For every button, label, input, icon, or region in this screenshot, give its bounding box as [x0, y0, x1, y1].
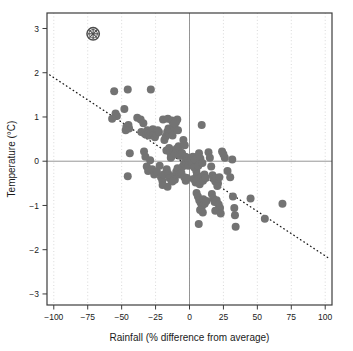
y-tick-label: −3: [29, 289, 39, 299]
data-point: [213, 182, 221, 190]
data-point: [278, 200, 286, 208]
x-tick-label: 25: [219, 312, 229, 322]
x-tick-label: 100: [318, 312, 332, 322]
data-point: [195, 220, 203, 228]
data-point: [215, 173, 223, 181]
data-point: [231, 211, 239, 219]
x-axis: −100−75−50−250255075100: [44, 305, 332, 322]
scatter-plot-figure: −100−75−50−250255075100 3210−1−2−3 Rainf…: [0, 0, 353, 351]
data-point: [247, 194, 255, 202]
data-point: [168, 178, 176, 186]
data-point: [108, 115, 116, 123]
data-point: [230, 204, 238, 212]
data-point: [198, 159, 206, 167]
data-point: [261, 215, 269, 223]
data-point: [226, 173, 234, 181]
data-point: [199, 209, 207, 217]
x-axis-title: Rainfall (% difference from average): [110, 332, 270, 343]
data-point: [229, 193, 237, 201]
x-tick-label: 0: [187, 312, 192, 322]
data-point: [155, 128, 163, 136]
y-tick-label: 3: [34, 24, 39, 34]
y-tick-label: −2: [29, 245, 39, 255]
y-axis-title: Temperature (°C): [6, 121, 17, 198]
y-axis: 3210−1−2−3: [29, 24, 47, 299]
y-tick-label: 0: [34, 156, 39, 166]
data-point: [156, 162, 164, 170]
y-tick-label: 2: [34, 68, 39, 78]
data-point: [232, 223, 240, 231]
data-point: [147, 86, 155, 94]
x-tick-label: −100: [44, 312, 63, 322]
data-point: [124, 86, 132, 94]
data-point: [217, 209, 225, 217]
x-tick-label: 75: [287, 312, 297, 322]
data-point: [170, 119, 178, 127]
data-point: [126, 149, 134, 157]
data-point: [206, 154, 214, 162]
y-tick-label: 1: [34, 112, 39, 122]
data-point: [120, 105, 128, 113]
circled-asterisk-marker: [87, 28, 99, 40]
y-tick-label: −1: [29, 201, 39, 211]
data-point: [146, 156, 154, 164]
data-point: [198, 121, 206, 129]
data-point: [219, 150, 227, 158]
x-tick-label: −25: [148, 312, 163, 322]
x-tick-label: −50: [114, 312, 129, 322]
data-point: [110, 87, 118, 95]
data-point: [181, 141, 189, 149]
chart-canvas: −100−75−50−250255075100 3210−1−2−3 Rainf…: [0, 0, 353, 351]
data-point: [139, 119, 147, 127]
data-point: [124, 172, 132, 180]
data-point: [174, 126, 182, 134]
x-tick-label: 50: [253, 312, 263, 322]
data-point: [122, 126, 130, 134]
x-tick-label: −75: [81, 312, 96, 322]
data-point: [228, 155, 236, 163]
data-point: [207, 163, 215, 171]
